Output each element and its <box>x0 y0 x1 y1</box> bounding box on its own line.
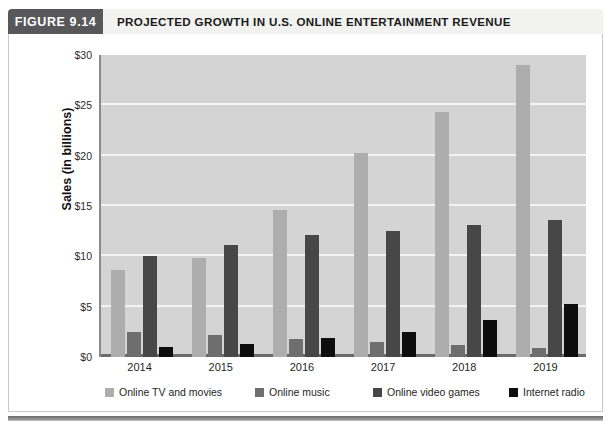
x-axis-tick-label: 2019 <box>533 361 557 373</box>
bar <box>370 342 384 357</box>
bar <box>451 345 465 357</box>
y-axis-tick-label: $25 <box>74 99 92 111</box>
bar <box>516 65 530 357</box>
y-axis-tick-label: $5 <box>80 301 92 313</box>
legend-swatch <box>255 388 264 397</box>
page-edge <box>0 0 3 434</box>
bar-group <box>426 55 507 357</box>
bar-group <box>182 55 263 357</box>
bar-group <box>263 55 344 357</box>
chart-frame: Sales (in billions) $0$5$10$15$20$25$30 … <box>8 34 603 412</box>
legend-item: Online TV and movies <box>105 386 222 398</box>
legend-item: Online music <box>255 386 330 398</box>
caption-text <box>10 428 590 434</box>
figure-number-tag: FIGURE 9.14 <box>8 9 103 34</box>
bar <box>192 258 206 357</box>
bar <box>402 332 416 357</box>
legend-label: Internet radio <box>523 386 585 398</box>
y-axis-tick-label: $10 <box>74 250 92 262</box>
legend-swatch <box>105 388 114 397</box>
bar <box>386 231 400 357</box>
legend-label: Online music <box>269 386 330 398</box>
x-axis-tick-label: 2014 <box>127 361 151 373</box>
bar-group <box>101 55 182 357</box>
plot-area <box>99 55 586 357</box>
chart-legend: Online TV and moviesOnline musicOnline v… <box>105 385 595 399</box>
y-axis-tick-label: $0 <box>80 351 92 363</box>
bar <box>435 112 449 357</box>
bar <box>305 235 319 357</box>
bar <box>111 270 125 357</box>
bar-group <box>345 55 426 357</box>
bar <box>289 339 303 357</box>
bar <box>159 347 173 357</box>
y-axis-tick-label: $15 <box>74 200 92 212</box>
bar <box>127 332 141 357</box>
legend-swatch <box>373 388 382 397</box>
bar <box>548 220 562 357</box>
bar <box>532 348 546 357</box>
figure-container: FIGURE 9.14 PROJECTED GROWTH IN U.S. ONL… <box>0 0 611 434</box>
y-axis-tick-label: $20 <box>74 150 92 162</box>
bar <box>321 338 335 357</box>
bar <box>208 335 222 357</box>
x-axis-tick-label: 2016 <box>290 361 314 373</box>
bar <box>483 320 497 357</box>
x-axis-tick-label: 2015 <box>209 361 233 373</box>
legend-label: Online video games <box>387 386 480 398</box>
x-axis-tick-label: 2017 <box>371 361 395 373</box>
bar <box>240 344 254 357</box>
bar <box>354 153 368 357</box>
plot-wrapper: $0$5$10$15$20$25$30 20142015201620172018… <box>99 55 586 360</box>
figure-title: PROJECTED GROWTH IN U.S. ONLINE ENTERTAI… <box>103 9 603 34</box>
y-axis-title: Sales (in billions) <box>60 79 74 239</box>
bar <box>273 210 287 357</box>
bar <box>564 304 578 357</box>
bar <box>467 225 481 357</box>
bottom-divider <box>8 416 603 421</box>
legend-item: Online video games <box>373 386 480 398</box>
y-axis-tick-label: $30 <box>74 49 92 61</box>
bar-group <box>507 55 586 357</box>
x-axis-tick-label: 2018 <box>452 361 476 373</box>
legend-label: Online TV and movies <box>119 386 222 398</box>
bar <box>224 245 238 357</box>
legend-swatch <box>509 388 518 397</box>
bar <box>143 256 157 357</box>
legend-item: Internet radio <box>509 386 585 398</box>
figure-header: FIGURE 9.14 PROJECTED GROWTH IN U.S. ONL… <box>8 9 603 34</box>
